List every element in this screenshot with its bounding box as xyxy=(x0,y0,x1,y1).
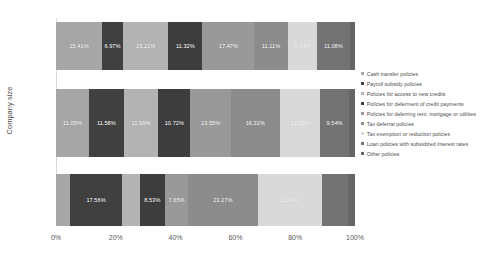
bar-segment: 21.40% xyxy=(258,174,322,226)
legend-item-label: Policies for deferment of credit payment… xyxy=(367,101,464,107)
bar-segment-label: 9.54% xyxy=(327,120,343,126)
bar-segment: 11.11% xyxy=(254,22,287,70)
x-axis-tick-label: 0% xyxy=(51,234,61,241)
legend-swatch-icon xyxy=(361,92,364,95)
legend-item[interactable]: Loan policies with subsidized interest r… xyxy=(361,139,501,149)
y-axis-title-text: Company size xyxy=(5,86,14,134)
bar-segment-label: 8.53% xyxy=(144,197,160,203)
y-axis-title: Company size xyxy=(2,0,16,220)
legend-item[interactable]: Tax deferral policies xyxy=(361,119,501,129)
legend-item[interactable]: Policies for deferment of credit payment… xyxy=(361,99,501,109)
x-axis-tick-label: 100% xyxy=(346,234,364,241)
bar-segment xyxy=(322,174,349,226)
bar-segment: 11.05% xyxy=(56,89,89,157)
legend-swatch-icon xyxy=(361,132,364,135)
bar-segment-label: 11.05% xyxy=(63,120,82,126)
bar-segment: 10.72% xyxy=(158,89,190,157)
bar-segment-label: 11.11% xyxy=(262,43,280,49)
legend-item-label: Tax exemption or reduction policies xyxy=(367,131,450,137)
bar-segment: 11.08% xyxy=(317,22,350,70)
bar-segment-label: 6.97% xyxy=(104,43,120,49)
plot-area: Micro SMEs Large 15.41%6.97%15.21%11.32%… xyxy=(56,18,355,218)
bar-segment-label: 9.74% xyxy=(294,43,310,49)
bar-segment: 9.74% xyxy=(288,22,317,70)
bar-segment: 16.32% xyxy=(231,89,280,157)
bar-segment: 9.54% xyxy=(320,89,349,157)
bar-row-micro: 15.41%6.97%15.21%11.32%17.47%11.11%9.74%… xyxy=(56,22,355,70)
bar-segment xyxy=(122,174,139,226)
bar-segment-label: 15.21% xyxy=(136,43,155,49)
bar-segment xyxy=(348,174,355,226)
bar-segment: 13.55% xyxy=(190,89,231,157)
bar-segment: 13.59% xyxy=(280,89,321,157)
bar-segment xyxy=(350,22,355,70)
legend-item-label: Tax deferral policies xyxy=(367,121,414,127)
legend-item-label: Payroll subsidy policies xyxy=(367,81,422,87)
bar-segment-label: 11.58% xyxy=(97,120,116,126)
legend-swatch-icon xyxy=(361,72,364,75)
bar-segment: 15.41% xyxy=(56,22,102,70)
bar-segment: 15.21% xyxy=(123,22,168,70)
bar-segment-label: 13.55% xyxy=(201,120,220,126)
x-axis-tick-label: 80% xyxy=(288,234,302,241)
legend-item[interactable]: Policies for deferring rent, mortgage or… xyxy=(361,109,501,119)
bar-segment-label: 15.41% xyxy=(69,43,88,49)
bar-segment-label: 23.27% xyxy=(213,197,232,203)
bar-segment-label: 13.59% xyxy=(290,120,309,126)
legend-item-label: Other policies xyxy=(367,151,400,157)
bar-segment-label: 16.32% xyxy=(246,120,265,126)
bar-row-large: 17.56%8.53%7.65%23.27%21.40% xyxy=(56,174,355,226)
bar-segment-label: 7.65% xyxy=(169,197,185,203)
x-axis-tick-label: 40% xyxy=(169,234,183,241)
bar-segment: 8.53% xyxy=(140,174,166,226)
bar-segment: 17.56% xyxy=(70,174,123,226)
legend-item[interactable]: Tax exemption or reduction policies xyxy=(361,129,501,139)
legend-swatch-icon xyxy=(361,122,364,125)
x-axis: 0%20%40%60%80%100% xyxy=(56,228,355,246)
bar-segment-label: 10.72% xyxy=(165,120,184,126)
bar-segment-label: 21.40% xyxy=(280,197,299,203)
chart-legend: Cash transfer policiesPayroll subsidy po… xyxy=(361,69,501,159)
bar-row-smes: 11.05%11.58%11.59%10.72%13.55%16.32%13.5… xyxy=(56,89,355,157)
stacked-bar-chart: Company size Micro SMEs Large 15.41%6.97… xyxy=(0,0,503,270)
bar-segment: 11.58% xyxy=(89,89,124,157)
legend-item-label: Loan policies with subsidized interest r… xyxy=(367,141,468,147)
bar-segment: 23.27% xyxy=(188,174,258,226)
bar-segment xyxy=(56,174,70,226)
legend-swatch-icon xyxy=(361,82,364,85)
legend-swatch-icon xyxy=(361,102,364,105)
bar-segment-label: 17.47% xyxy=(219,43,238,49)
x-axis-tick-label: 20% xyxy=(109,234,123,241)
bar-segment-label: 11.08% xyxy=(324,43,343,49)
bar-segment-label: 11.59% xyxy=(132,120,151,126)
bar-segment: 6.97% xyxy=(102,22,123,70)
x-axis-tick-label: 60% xyxy=(228,234,242,241)
bar-segment-label: 17.56% xyxy=(86,197,105,203)
legend-item[interactable]: Cash transfer policies xyxy=(361,69,501,79)
bar-segment: 17.47% xyxy=(202,22,254,70)
legend-item[interactable]: Payroll subsidy policies xyxy=(361,79,501,89)
legend-swatch-icon xyxy=(361,152,364,155)
bar-segment: 7.65% xyxy=(165,174,188,226)
legend-item[interactable]: Policies for access to new credits xyxy=(361,89,501,99)
bar-segment: 11.32% xyxy=(168,22,202,70)
legend-swatch-icon xyxy=(361,112,364,115)
legend-item-label: Policies for deferring rent, mortgage or… xyxy=(367,111,476,117)
legend-item-label: Cash transfer policies xyxy=(367,71,418,77)
bar-segment-label: 11.32% xyxy=(176,43,195,49)
bar-segment: 11.59% xyxy=(124,89,159,157)
bar-segment xyxy=(349,89,355,157)
legend-item-label: Policies for access to new credits xyxy=(367,91,446,97)
legend-swatch-icon xyxy=(361,142,364,145)
legend-item[interactable]: Other policies xyxy=(361,149,501,159)
